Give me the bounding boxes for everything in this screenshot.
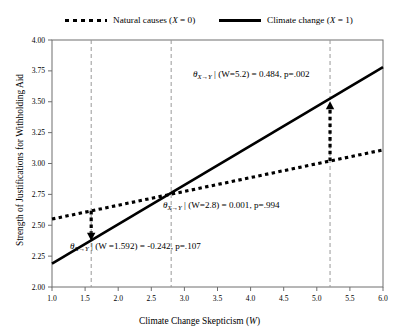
y-tick-label-0: 2.00 [32, 283, 45, 292]
annotation-w-5-2: θX→Y | (W=5.2) = 0.484, p=.002 [193, 69, 310, 80]
x-axis-title: Climate Change Skepticism (W) [0, 316, 399, 326]
x-tick-label-5: 3.5 [213, 294, 223, 303]
y-tick-label-7: 3.75 [32, 66, 45, 75]
y-tick-label-8: 4.00 [32, 36, 45, 45]
y-axis-ticks: 2.002.252.502.753.003.253.503.754.00 [32, 36, 52, 292]
x-tick-label-6: 4.0 [246, 294, 256, 303]
moderation-plot-figure: Natural causes (X = 0) Climate change (X… [0, 0, 399, 335]
effect-arrow-head-1 [326, 101, 334, 109]
series-lines [52, 67, 383, 263]
y-tick-label-3: 2.75 [32, 190, 45, 199]
annotation-w-1-592: θX→Y | (W =1.592) = -0.242, p=.107 [70, 241, 201, 252]
x-axis-ticks: 1.01.52.02.53.03.54.04.55.05.56.0 [47, 287, 388, 303]
series-line-climate-change [52, 67, 383, 263]
annotation-w-2-8: θX→Y | (W=2.8) = 0.001, p=.994 [163, 200, 280, 211]
y-tick-label-1: 2.25 [32, 252, 45, 261]
x-tick-label-2: 2.0 [113, 294, 123, 303]
y-axis-title: Strength of Justifications for Withholdi… [15, 30, 25, 290]
y-tick-label-5: 3.25 [32, 128, 45, 137]
x-tick-label-3: 2.5 [147, 294, 157, 303]
x-tick-label-7: 4.5 [279, 294, 289, 303]
plot-canvas: 2.002.252.502.753.003.253.503.754.00 1.0… [0, 0, 399, 335]
y-tick-label-2: 2.50 [32, 221, 45, 230]
x-tick-label-1: 1.5 [80, 294, 90, 303]
y-tick-label-4: 3.00 [32, 159, 45, 168]
x-tick-label-9: 5.5 [345, 294, 355, 303]
x-tick-label-4: 3.0 [180, 294, 190, 303]
x-tick-label-8: 5.0 [312, 294, 322, 303]
x-tick-label-0: 1.0 [47, 294, 57, 303]
x-tick-label-10: 6.0 [378, 294, 388, 303]
y-tick-label-6: 3.50 [32, 97, 45, 106]
